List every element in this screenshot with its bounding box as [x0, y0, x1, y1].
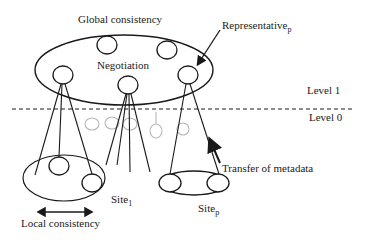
middle-links: [106, 94, 150, 172]
rep-node-right: [178, 66, 198, 84]
site-p-node-1: [159, 174, 181, 192]
negotiation-label: Negotiation: [97, 60, 149, 71]
site1-sub: 1: [128, 199, 132, 208]
local-node-1: [49, 157, 69, 175]
global-consistency-label: Global consistency: [78, 14, 162, 25]
local-consistency-label: Local consistency: [21, 218, 100, 229]
level1-label: Level 1: [307, 85, 340, 96]
level0-label: Level 0: [309, 112, 342, 123]
representative-text: Representative: [222, 19, 287, 31]
rep-node-top-right: [157, 41, 177, 59]
transfer-label: Transfer of metadata: [222, 163, 313, 174]
rep-node-left: [53, 66, 73, 84]
sitep-text: Site: [198, 202, 215, 214]
local-node-2: [82, 174, 102, 192]
sitep-sub: p: [215, 208, 219, 217]
representative-sub: p: [287, 25, 291, 34]
representative-label: Representativep: [222, 20, 291, 34]
local-consistency-arrow: [38, 208, 92, 216]
rep-node-top-left: [97, 36, 117, 54]
faded-sites: [85, 112, 189, 138]
sitep-label: Sitep: [198, 203, 219, 217]
site1-text: Site: [111, 193, 128, 205]
site1-label: Site1: [111, 194, 132, 208]
site-p-group: [159, 171, 229, 195]
rep-node-middle: [118, 76, 138, 94]
site-p-node-2: [207, 174, 229, 192]
